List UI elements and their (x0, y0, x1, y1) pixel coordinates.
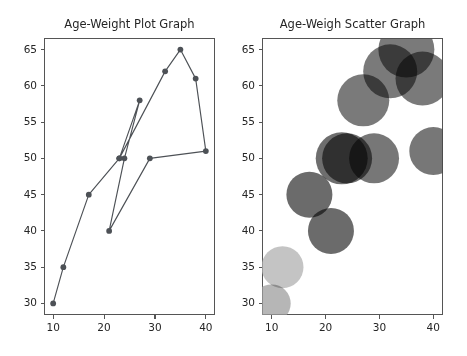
scatter-bubble (396, 52, 450, 106)
scatter-bubble (308, 208, 354, 254)
scatter-bubble (261, 246, 303, 288)
scatter-bubble (253, 284, 291, 322)
scatter-bubble (409, 127, 457, 175)
scatter-bubble (349, 133, 399, 183)
right-scatter-canvas (0, 0, 467, 356)
matplotlib-figure: Age-Weight Plot Graph 303540455055606510… (0, 0, 467, 356)
axes-right-scatter-plot: Age-Weigh Scatter Graph 3035404550556065… (0, 0, 467, 356)
